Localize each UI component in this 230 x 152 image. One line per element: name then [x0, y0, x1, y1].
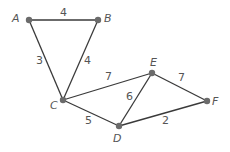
node-label-B: B — [104, 12, 112, 25]
node-E — [149, 70, 155, 76]
edge-weight-A-C: 3 — [36, 54, 43, 67]
node-label-E: E — [150, 56, 157, 69]
edge-weight-D-F: 2 — [162, 114, 169, 127]
edge-weight-A-B: 4 — [60, 6, 67, 19]
node-C — [60, 97, 66, 103]
weighted-graph-diagram: 43475672ABCDEF — [0, 0, 230, 152]
edge-B-C — [63, 20, 98, 100]
edge-weight-C-D: 5 — [85, 114, 92, 127]
node-label-F: F — [212, 95, 219, 108]
node-label-A: A — [11, 12, 20, 25]
edge-weight-B-C: 4 — [84, 54, 91, 67]
node-A — [26, 17, 32, 23]
node-D — [116, 123, 122, 129]
node-label-D: D — [113, 132, 121, 145]
node-B — [95, 17, 101, 23]
edge-weight-D-E: 6 — [126, 90, 133, 103]
edge-weight-C-E: 7 — [105, 70, 112, 83]
edge-A-C — [29, 20, 63, 100]
node-F — [204, 98, 210, 104]
edge-weight-E-F: 7 — [178, 71, 185, 84]
node-label-C: C — [50, 99, 58, 112]
